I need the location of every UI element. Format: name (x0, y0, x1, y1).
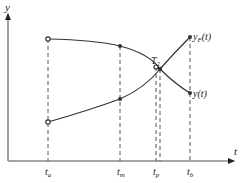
y-axis-label: y (4, 1, 10, 13)
diagram-canvas: y t yF(t) y(t) T2 ta tm tp tb (0, 0, 246, 183)
point-y-ta (46, 37, 50, 41)
point-yF-tb (188, 35, 192, 39)
label-T2: T2 (151, 55, 161, 68)
label-yF: yF(t) (192, 31, 212, 44)
tick-label-tb: tb (187, 166, 194, 179)
point-y-tb (188, 91, 192, 95)
tick-label-tp: tp (153, 166, 160, 179)
tick-label-tm: tm (117, 166, 125, 179)
tick-label-ta: ta (45, 166, 52, 179)
point-yF-tm (118, 97, 122, 101)
x-axis-label: t (234, 145, 238, 157)
point-yF-ta (46, 120, 50, 124)
point-y-tm (118, 44, 122, 48)
label-y: y(t) (192, 88, 208, 100)
curve-yF (48, 37, 190, 122)
